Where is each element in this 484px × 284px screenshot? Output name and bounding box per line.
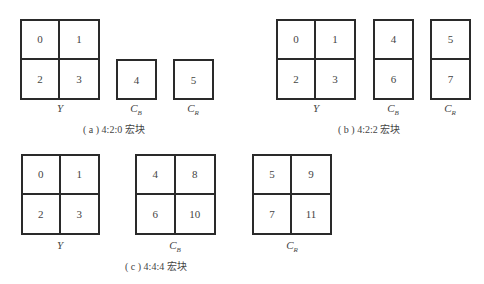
y-label: Y (40, 239, 80, 251)
block-cell: 4 (118, 61, 155, 98)
cr-block: 5 (173, 59, 214, 100)
block-cell: 9 (292, 156, 330, 195)
cb-block: 4 (116, 59, 157, 100)
block-cell: 2 (22, 60, 60, 99)
panel-caption: ( c ) 4:4:4 宏块 (125, 258, 187, 273)
block-cell: 2 (23, 195, 61, 234)
cr-block: 5 9 7 11 (252, 154, 332, 235)
block-cell: 3 (316, 60, 354, 99)
cb-label: CB (116, 102, 156, 117)
cb-block: 4 6 (373, 19, 414, 100)
block-cell: 4 (375, 21, 412, 60)
block-cell: 0 (23, 156, 61, 195)
block-cell: 7 (254, 195, 292, 234)
cr-label: CR (272, 239, 312, 254)
cb-label: CB (155, 239, 195, 254)
y-label: Y (40, 102, 80, 114)
block-cell: 0 (22, 21, 60, 60)
block-cell: 6 (137, 195, 176, 234)
block-cell: 4 (137, 156, 176, 195)
block-cell: 7 (432, 60, 469, 99)
block-cell: 5 (254, 156, 292, 195)
block-cell: 1 (61, 156, 99, 195)
panel-caption: ( b ) 4:2:2 宏块 (338, 121, 400, 136)
block-cell: 5 (432, 21, 469, 60)
block-cell: 2 (278, 60, 316, 99)
block-cell: 1 (316, 21, 354, 60)
block-cell: 6 (375, 60, 412, 99)
cb-block: 4 8 6 10 (135, 154, 216, 235)
block-cell: 3 (61, 195, 99, 234)
block-cell: 10 (176, 195, 215, 234)
cr-label: CR (173, 102, 213, 117)
block-cell: 5 (175, 61, 212, 98)
block-cell: 0 (278, 21, 316, 60)
cr-label: CR (430, 102, 470, 117)
cb-label: CB (373, 102, 413, 117)
block-cell: 11 (292, 195, 330, 234)
y-block: 0 1 2 3 (20, 19, 100, 100)
block-cell: 3 (60, 60, 98, 99)
y-label: Y (296, 102, 336, 114)
panel-caption: ( a ) 4:2:0 宏块 (83, 121, 145, 136)
y-block: 0 1 2 3 (276, 19, 356, 100)
block-cell: 1 (60, 21, 98, 60)
cr-block: 5 7 (430, 19, 471, 100)
block-cell: 8 (176, 156, 215, 195)
y-block: 0 1 2 3 (21, 154, 100, 235)
